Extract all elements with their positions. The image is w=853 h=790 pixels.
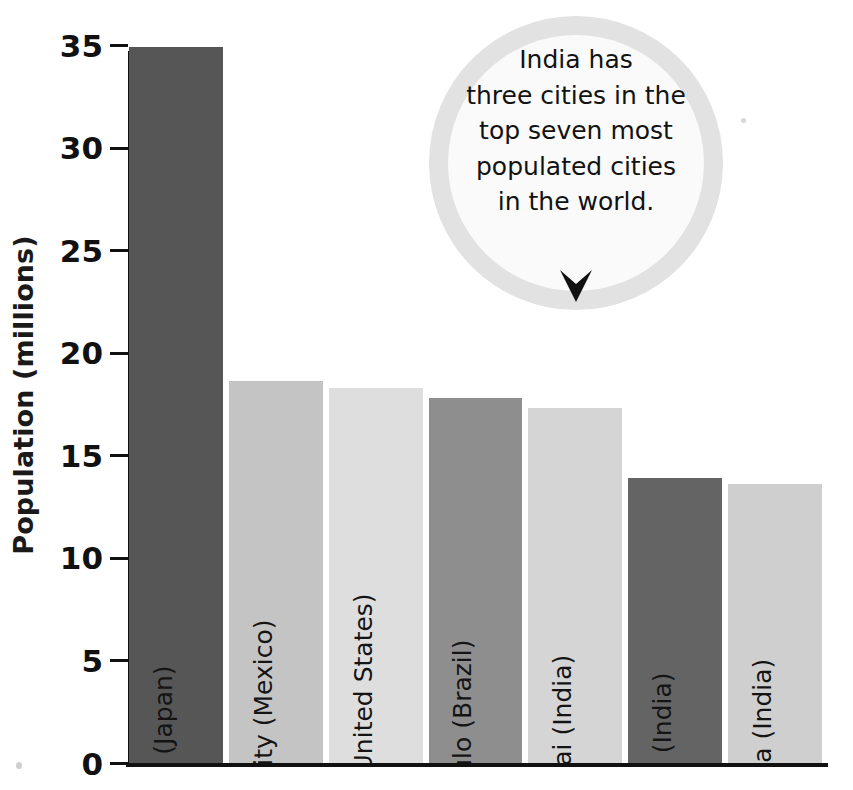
y-axis-tick-label: 5 xyxy=(81,645,103,676)
scan-speck xyxy=(16,762,22,769)
callout-text: India has three cities in the top seven … xyxy=(437,42,715,220)
y-axis-tick: 10 xyxy=(110,557,128,560)
bar[interactable]: New York (United States) xyxy=(329,388,423,763)
callout-line-4: populated cities xyxy=(437,149,715,185)
y-axis-tick-label: 15 xyxy=(60,440,103,471)
bar-label: Kolkata (India) xyxy=(750,659,775,763)
y-axis-title: Population (millions) xyxy=(0,0,46,790)
y-axis-tick: 25 xyxy=(110,249,128,252)
x-axis-line xyxy=(126,763,828,767)
bar-label: Mexico City (Mexico) xyxy=(251,620,276,763)
bar-label: Delhi (India) xyxy=(650,672,675,763)
bar-label: New York (United States) xyxy=(351,593,376,763)
callout-line-3: top seven most xyxy=(437,113,715,149)
y-axis-tick-label: 30 xyxy=(60,133,103,164)
y-axis-tick: 15 xyxy=(110,454,128,457)
bar[interactable]: Mexico City (Mexico) xyxy=(229,381,323,763)
bar-label: Mumbai (India) xyxy=(550,655,575,763)
y-axis-tick: 5 xyxy=(110,659,128,662)
bar[interactable]: Tokyo (Japan) xyxy=(129,47,223,763)
y-axis-tick-label: 0 xyxy=(81,748,103,779)
y-axis-tick: 20 xyxy=(110,352,128,355)
bar-label: São Paulo (Brazil) xyxy=(450,639,475,763)
callout-line-1: India has xyxy=(437,42,715,78)
callout-line-5: in the world. xyxy=(437,184,715,220)
y-axis-tick-label: 20 xyxy=(60,338,103,369)
callout-line-2: three cities in the xyxy=(437,78,715,114)
bar[interactable]: Delhi (India) xyxy=(628,478,722,763)
bar-chart: Population (millions) 05101520253035 Tok… xyxy=(0,0,853,790)
bar-label: Tokyo (Japan) xyxy=(151,665,176,763)
down-chevron-icon xyxy=(558,268,594,308)
y-axis-tick-label: 35 xyxy=(60,30,103,61)
india-callout: India has three cities in the top seven … xyxy=(429,16,723,310)
scan-speck xyxy=(741,118,746,123)
y-axis-tick: 35 xyxy=(110,44,128,47)
bar[interactable]: São Paulo (Brazil) xyxy=(429,398,523,763)
bar[interactable]: Mumbai (India) xyxy=(528,408,622,763)
y-axis-tick-label: 25 xyxy=(60,235,103,266)
y-axis-tick: 30 xyxy=(110,147,128,150)
y-axis-tick-label: 10 xyxy=(60,543,103,574)
y-axis-tick: 0 xyxy=(110,762,128,765)
bar[interactable]: Kolkata (India) xyxy=(728,484,822,763)
